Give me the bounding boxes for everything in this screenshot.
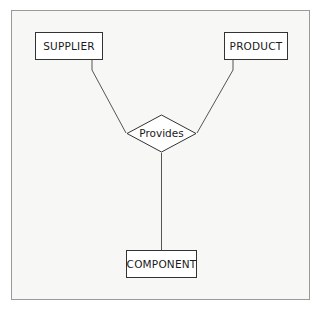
relationship-provides[interactable]: Provides — [126, 114, 197, 153]
entity-component-label: COMPONENT — [127, 259, 197, 270]
entity-supplier[interactable]: SUPPLIER — [35, 32, 103, 60]
entity-product-label: PRODUCT — [230, 41, 283, 52]
er-diagram-canvas: SUPPLIER PRODUCT COMPONENT Provides — [0, 0, 323, 313]
relationship-provides-label: Provides — [126, 114, 197, 153]
entity-component[interactable]: COMPONENT — [126, 250, 197, 278]
entity-supplier-label: SUPPLIER — [43, 41, 95, 52]
entity-product[interactable]: PRODUCT — [224, 32, 288, 60]
